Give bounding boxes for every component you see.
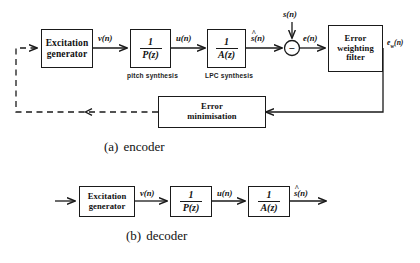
encoder-pitch-denominator: P(z) (142, 49, 159, 60)
encoder-lpc-denominator: A(z) (218, 49, 235, 60)
decoder-excitation-generator-block[interactable]: Excitation generator (79, 186, 135, 217)
encoder-error-minimisation-block[interactable]: Error minimisation (158, 96, 266, 128)
encoder-excitation-generator-line2: generator (47, 49, 87, 60)
decoder-caption: (b)decoder (126, 228, 187, 244)
encoder-lpc-synthesis-block[interactable]: 1 A(z) (207, 29, 246, 68)
hat-accent-icon: ^ (252, 29, 257, 38)
error-minimisation-line2: minimisation (187, 112, 236, 122)
figure-canvas: Excitation generator 1 P(z) pitch synthe… (0, 0, 420, 263)
encoder-pitch-synthesis-block[interactable]: 1 P(z) (130, 29, 171, 68)
decoder-signal-label-pitch-out: u(n) (217, 188, 232, 198)
decoder-signal-label-excitation-out: v(n) (140, 188, 154, 198)
hat-accent-icon: ^ (295, 184, 300, 193)
decoder-excitation-generator-line2: generator (89, 202, 126, 212)
error-weighting-filter-line3: filter (346, 53, 365, 63)
signal-label-error: e(n) (303, 33, 317, 43)
signal-label-weighted-error: ew(n) (387, 38, 403, 49)
encoder-lpc-synthesis-annotation: LPC synthesis (205, 72, 253, 79)
weighted-error-arg: (n) (394, 38, 403, 47)
decoder-lpc-synthesis-block[interactable]: 1 A(z) (248, 186, 290, 217)
encoder-excitation-generator-line1: Excitation (46, 38, 89, 49)
signal-label-lpc-out: ^s(n) (251, 33, 265, 43)
encoder-pitch-synthesis-annotation: pitch synthesis (127, 72, 178, 79)
encoder-excitation-generator-block[interactable]: Excitation generator (41, 29, 93, 68)
summing-node-minus-sign: − (289, 42, 295, 54)
decoder-lpc-numerator: 1 (267, 190, 272, 201)
decoder-lpc-denominator: A(z) (260, 202, 277, 213)
encoder-caption-label: (a) (104, 139, 118, 154)
decoder-pitch-synthesis-block[interactable]: 1 P(z) (170, 186, 212, 217)
decoder-signal-label-lpc-out: ^s(n) (294, 188, 308, 198)
decoder-pitch-denominator: P(z) (183, 202, 200, 213)
signal-label-input-speech: s(n) (283, 9, 297, 19)
encoder-caption-text: encoder (123, 139, 164, 154)
decoder-caption-label: (b) (126, 228, 141, 243)
decoder-caption-text: decoder (146, 228, 187, 243)
signal-label-pitch-out: u(n) (176, 33, 191, 43)
encoder-pitch-numerator: 1 (148, 37, 153, 48)
encoder-caption: (a)encoder (104, 139, 165, 155)
signal-label-excitation-out: v(n) (98, 33, 112, 43)
encoder-error-weighting-filter-block[interactable]: Error weighting filter (328, 25, 383, 72)
decoder-pitch-numerator: 1 (189, 190, 194, 201)
encoder-lpc-numerator: 1 (224, 37, 229, 48)
